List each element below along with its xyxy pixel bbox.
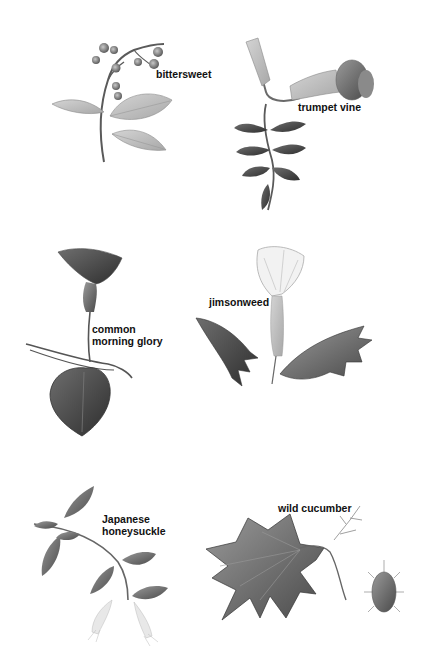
- jimsonweed-drawing: [196, 247, 372, 386]
- plant-label-japanese-honeysuckle: Japanese honeysuckle: [102, 513, 166, 537]
- plant-label-jimsonweed: jimsonweed: [209, 296, 269, 308]
- plant-illustration-plate: bittersweet trumpet vine common morning …: [0, 0, 427, 662]
- japanese-honeysuckle-drawing: [34, 486, 168, 646]
- plant-label-bittersweet: bittersweet: [156, 68, 211, 80]
- plant-label-trumpet-vine: trumpet vine: [298, 101, 361, 113]
- trumpet-vine-drawing: [234, 38, 374, 210]
- plant-drawings: [0, 0, 427, 662]
- wild-cucumber-drawing: [206, 506, 404, 620]
- plant-label-common-morning-glory: common morning glory: [92, 323, 163, 347]
- plant-label-wild-cucumber: wild cucumber: [278, 502, 352, 514]
- bittersweet-drawing: [52, 43, 172, 162]
